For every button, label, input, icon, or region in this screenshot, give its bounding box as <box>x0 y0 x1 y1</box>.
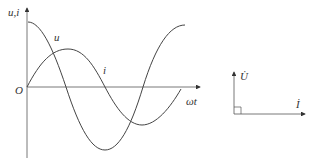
u-curve-label: u <box>54 31 60 43</box>
origin-label: O <box>15 84 23 96</box>
right-angle-marker <box>234 107 241 114</box>
x-axis-label: ωt <box>186 95 198 107</box>
capacitor-phase-diagram: u,i O ωt u i U̇ İ <box>0 0 313 161</box>
u-curve <box>28 22 185 150</box>
current-phasor-label: İ <box>295 98 301 110</box>
y-axis-label: u,i <box>8 6 19 18</box>
i-curve-label: i <box>103 64 106 76</box>
voltage-phasor-label: U̇ <box>240 70 249 82</box>
